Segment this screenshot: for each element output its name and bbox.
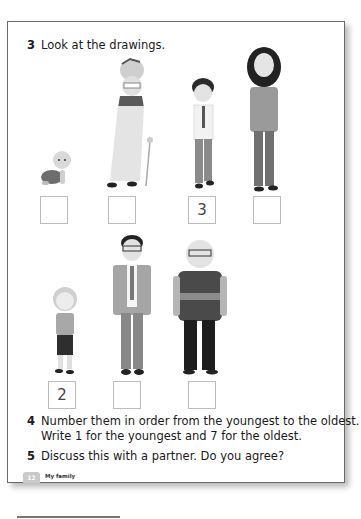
- teenage-girl-illustration: [243, 45, 287, 193]
- little-girl-illustration: [50, 285, 82, 375]
- answer-box-baby[interactable]: [40, 196, 68, 224]
- divider-line: [17, 516, 120, 518]
- task-3-heading: 3Look at the drawings.: [27, 38, 165, 53]
- task-4-line-1: Number them in order from the youngest t…: [41, 414, 359, 428]
- section-label: My family: [45, 473, 75, 479]
- answer-box-little-girl[interactable]: 2: [48, 381, 76, 409]
- task-number: 3: [27, 38, 41, 53]
- answer-box-man-in-suit[interactable]: [113, 381, 141, 409]
- task-5-instruction: 5Discuss this with a partner. Do you agr…: [27, 449, 284, 464]
- page-number-tab: 12: [23, 472, 40, 483]
- old-woman-illustration: [100, 56, 160, 191]
- task-number: 5: [27, 449, 41, 464]
- old-man-illustration: [172, 238, 228, 378]
- answer-box-teenage-girl[interactable]: [253, 196, 281, 224]
- task-4-line-2: Write 1 for the youngest and 7 for the o…: [41, 429, 302, 443]
- man-in-suit-illustration: [108, 233, 156, 378]
- boy-illustration: [184, 75, 224, 190]
- task-text: Discuss this with a partner. Do you agre…: [41, 449, 284, 464]
- baby-illustration: [38, 148, 78, 190]
- task-number: 4: [27, 414, 41, 429]
- task-4-instruction: 4Number them in order from the youngest …: [27, 414, 359, 444]
- answer-box-old-woman[interactable]: [108, 196, 136, 224]
- answer-box-old-man[interactable]: [188, 381, 216, 409]
- task-text: Look at the drawings.: [41, 38, 165, 53]
- answer-box-boy[interactable]: 3: [188, 196, 216, 224]
